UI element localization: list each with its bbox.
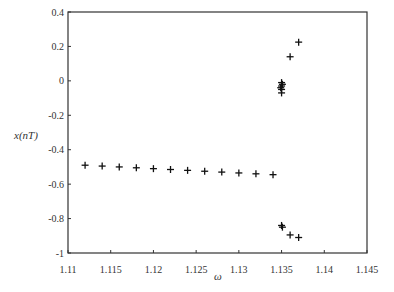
y-tick-label: -1 bbox=[56, 248, 64, 259]
x-tick-label: 1.145 bbox=[356, 264, 379, 275]
y-tick-label: -0.6 bbox=[48, 179, 64, 190]
x-axis-label: ω bbox=[214, 270, 222, 282]
x-tick-label: 1.135 bbox=[270, 264, 293, 275]
y-tick-label: 0.2 bbox=[52, 41, 65, 52]
y-tick-label: 0 bbox=[59, 75, 64, 86]
y-tick-label: -0.4 bbox=[48, 144, 64, 155]
y-tick-label: 0.4 bbox=[52, 7, 65, 18]
x-tick-label: 1.11 bbox=[59, 264, 76, 275]
scatter-chart: 1.111.1151.121.1251.131.1351.141.145 0.4… bbox=[0, 0, 394, 292]
x-tick-label: 1.125 bbox=[185, 264, 208, 275]
x-tick-label: 1.13 bbox=[230, 264, 248, 275]
x-tick-label: 1.115 bbox=[100, 264, 122, 275]
y-tick-label: -0.2 bbox=[48, 110, 64, 121]
plot-area bbox=[68, 12, 367, 253]
y-axis-label: x(nT) bbox=[13, 129, 38, 142]
x-tick-label: 1.14 bbox=[316, 264, 334, 275]
y-tick-label: -0.8 bbox=[48, 213, 64, 224]
x-tick-label: 1.12 bbox=[145, 264, 163, 275]
